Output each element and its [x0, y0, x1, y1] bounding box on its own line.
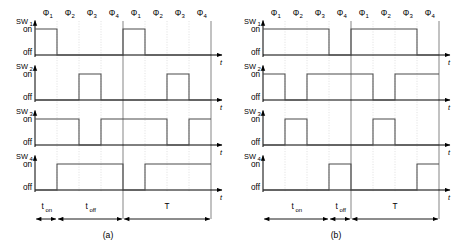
waveform-row-sw3: SW3onofft — [16, 107, 223, 157]
phase-label: Φ1 — [131, 9, 142, 19]
phase-label: Φ2 — [293, 9, 304, 19]
waveform-row-sw2: SW2onofft — [244, 62, 451, 112]
phase-label: Φ2 — [381, 9, 392, 19]
waveform-row-sw4: SW4onofft — [244, 152, 451, 202]
phase-label: Φ3 — [175, 9, 186, 19]
interval-label-subscript: on — [295, 207, 302, 213]
time-axis-label: t — [220, 148, 223, 157]
level-label-off: off — [251, 48, 261, 57]
panel-b-canvas: Φ1Φ2Φ3Φ4Φ1Φ2Φ3Φ4SW1onofftSW2onofftSW3ono… — [228, 0, 456, 249]
interval-label-name: t — [42, 202, 45, 211]
phase-label-subscript: 2 — [387, 13, 391, 19]
interval-label: toff — [86, 202, 97, 213]
panel-caption: (b) — [331, 230, 342, 240]
phase-label-subscript: 2 — [299, 13, 303, 19]
time-axis-label: t — [448, 103, 451, 112]
panel-a-canvas: Φ1Φ2Φ3Φ4Φ1Φ2Φ3Φ4SW1onofftSW2onofftSW3ono… — [0, 0, 228, 249]
phase-label-subscript: 3 — [321, 13, 325, 19]
phase-label: Φ4 — [425, 9, 436, 19]
panel-caption: (a) — [103, 230, 114, 240]
interval-t: T — [124, 202, 210, 219]
phase-label-subscript: 1 — [365, 13, 369, 19]
waveform-trace — [35, 29, 211, 55]
level-label-on: on — [251, 115, 261, 124]
interval-label: ton — [292, 202, 303, 213]
interval-label: ton — [42, 202, 53, 213]
phase-label: Φ3 — [403, 9, 414, 19]
phase-label-subscript: 1 — [277, 13, 281, 19]
phase-label-subscript: 4 — [203, 13, 207, 19]
phase-label: Φ3 — [315, 9, 326, 19]
phase-label-subscript: 4 — [343, 13, 347, 19]
level-label-off: off — [251, 183, 261, 192]
interval-label-name: t — [292, 202, 295, 211]
level-label-on: on — [251, 160, 261, 169]
phase-label-subscript: 1 — [49, 13, 53, 19]
phase-label: Φ1 — [359, 9, 370, 19]
phase-label-subscript: 3 — [93, 13, 97, 19]
phase-label: Φ4 — [197, 9, 208, 19]
panel-b: Φ1Φ2Φ3Φ4Φ1Φ2Φ3Φ4SW1onofftSW2onofftSW3ono… — [228, 0, 456, 249]
phase-label: Φ2 — [65, 9, 76, 19]
phase-label: Φ4 — [109, 9, 120, 19]
interval-label-subscript: off — [89, 207, 96, 213]
waveform-row-sw1: SW1onofft — [16, 17, 223, 67]
interval-off: toff — [330, 202, 350, 219]
interval-off: toff — [58, 202, 122, 219]
interval-label-name: T — [164, 202, 169, 211]
phase-label-subscript: 4 — [115, 13, 119, 19]
level-label-off: off — [23, 93, 33, 102]
interval-label: T — [392, 202, 397, 211]
phase-label-subscript: 2 — [159, 13, 163, 19]
time-axis-label: t — [448, 193, 451, 202]
waveform-row-sw4: SW4onofft — [16, 152, 223, 202]
panel-a: Φ1Φ2Φ3Φ4Φ1Φ2Φ3Φ4SW1onofftSW2onofftSW3ono… — [0, 0, 228, 249]
interval-label-subscript: on — [45, 207, 52, 213]
level-label-off: off — [251, 138, 261, 147]
time-axis-label: t — [448, 148, 451, 157]
interval-label-subscript: off — [339, 207, 346, 213]
interval-on: ton — [264, 202, 328, 219]
level-label-on: on — [251, 25, 261, 34]
phase-label: Φ1 — [271, 9, 282, 19]
phase-label: Φ4 — [337, 9, 348, 19]
interval-t: T — [352, 202, 438, 219]
level-label-on: on — [251, 70, 261, 79]
interval-label-name: t — [336, 202, 339, 211]
phase-label: Φ3 — [87, 9, 98, 19]
level-label-off: off — [23, 48, 33, 57]
level-label-off: off — [251, 93, 261, 102]
interval-on: ton — [36, 202, 56, 219]
phase-label-subscript: 3 — [409, 13, 413, 19]
interval-label-name: t — [86, 202, 89, 211]
timing-diagram-figure: Φ1Φ2Φ3Φ4Φ1Φ2Φ3Φ4SW1onofftSW2onofftSW3ono… — [0, 0, 456, 249]
level-label-on: on — [23, 25, 33, 34]
phase-label-subscript: 2 — [71, 13, 75, 19]
interval-label: T — [164, 202, 169, 211]
phase-label-subscript: 4 — [431, 13, 435, 19]
interval-label: toff — [336, 202, 347, 213]
interval-label-name: T — [392, 202, 397, 211]
phase-label-subscript: 3 — [181, 13, 185, 19]
level-label-on: on — [23, 70, 33, 79]
level-label-on: on — [23, 160, 33, 169]
time-axis-label: t — [220, 58, 223, 67]
time-axis-label: t — [220, 193, 223, 202]
waveform-row-sw1: SW1onofft — [244, 17, 451, 67]
time-axis-label: t — [220, 103, 223, 112]
waveform-trace — [263, 29, 439, 55]
waveform-row-sw3: SW3onofft — [244, 107, 451, 157]
time-axis-label: t — [448, 58, 451, 67]
waveform-trace — [263, 164, 439, 190]
level-label-off: off — [23, 183, 33, 192]
phase-label-subscript: 1 — [137, 13, 141, 19]
level-label-on: on — [23, 115, 33, 124]
level-label-off: off — [23, 138, 33, 147]
waveform-trace — [35, 164, 211, 190]
waveform-row-sw2: SW2onofft — [16, 62, 223, 112]
phase-label: Φ1 — [43, 9, 54, 19]
phase-label: Φ2 — [153, 9, 164, 19]
